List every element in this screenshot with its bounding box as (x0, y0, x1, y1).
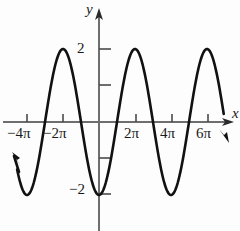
x-axis-label: x (232, 106, 239, 121)
x-tick-label-two-pi: 2π (124, 126, 139, 141)
y-tick-label-two: 2 (77, 41, 85, 56)
x-tick-label-neg-two-pi: −2π (43, 126, 67, 141)
curve-right-arrowhead (219, 129, 229, 143)
y-tick-label-neg-two: −2 (69, 182, 85, 197)
x-tick-label-six-pi: 6π (196, 126, 211, 141)
trig-graph-figure: −4π −2π 2π 4π 6π 2 −2 y x (0, 0, 240, 231)
y-axis-label: y (86, 2, 93, 17)
coordinate-plane (0, 0, 240, 231)
x-tick-label-neg-four-pi: −4π (7, 126, 31, 141)
x-tick-label-four-pi: 4π (160, 126, 175, 141)
